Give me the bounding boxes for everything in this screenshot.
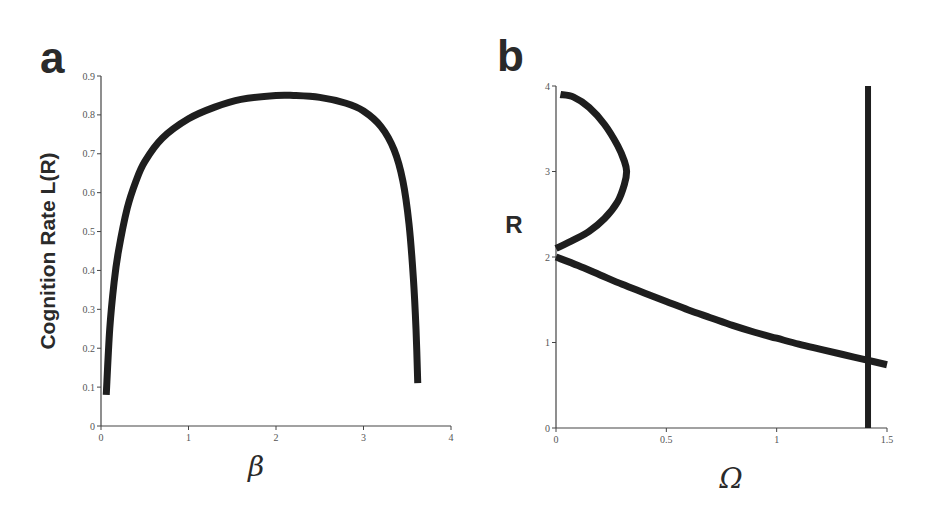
chart-b-axes: 00.511.501234	[545, 81, 893, 446]
chart-a-y-tick-label: 0.9	[83, 71, 96, 82]
chart-a-y-tick-label: 0.6	[83, 187, 96, 198]
chart-b-y-tick-label: 3	[545, 166, 550, 177]
chart-a-x-tick-label: 4	[449, 432, 454, 443]
chart-a-x-tick-label: 3	[361, 432, 366, 443]
chart-b-y-axis-label: R	[505, 211, 522, 238]
chart-a-y-tick-label: 0.8	[83, 109, 96, 120]
chart-a-y-tick-label: 0.1	[83, 382, 96, 393]
chart-b-series-upper-branch-arc-	[556, 95, 627, 249]
chart-b-y-tick-label: 0	[545, 423, 550, 434]
chart-a-y-tick-label: 0.7	[83, 148, 96, 159]
chart-b-y-tick-label: 4	[545, 81, 550, 92]
chart-b-curves	[556, 86, 887, 428]
chart-a-x-tick-label: 1	[186, 432, 191, 443]
chart-b-y-tick-label: 2	[545, 252, 550, 263]
chart-a-y-tick-label: 0	[90, 421, 95, 432]
figure-canvas: 0123400.10.20.30.40.50.60.70.80.9 Cognit…	[0, 0, 927, 512]
chart-a-x-axis-label: β	[247, 450, 264, 483]
chart-a-y-axis-label: Cognition Rate L(R)	[36, 152, 59, 349]
chart-b-y-tick-label: 1	[545, 337, 550, 348]
chart-b-x-axis-label: Ω	[718, 462, 742, 495]
chart-a-y-tick-label: 0.5	[83, 226, 96, 237]
chart-a: 0123400.10.20.30.40.50.60.70.80.9 Cognit…	[36, 71, 454, 484]
chart-a-y-tick-label: 0.3	[83, 304, 96, 315]
chart-a-y-tick-label: 0.4	[83, 265, 96, 276]
chart-b-x-tick-label: 1	[774, 434, 779, 445]
chart-a-axes: 0123400.10.20.30.40.50.60.70.80.9	[83, 71, 454, 444]
chart-b-x-tick-label: 0	[554, 434, 559, 445]
chart-b-x-tick-label: 1.5	[881, 434, 894, 445]
chart-a-curve	[106, 95, 418, 395]
chart-a-x-tick-label: 0	[99, 432, 104, 443]
chart-a-series-l-r-	[106, 95, 418, 395]
chart-b-series-lower-branch	[556, 257, 887, 365]
chart-b-x-tick-label: 0.5	[660, 434, 673, 445]
chart-a-y-tick-label: 0.2	[83, 343, 96, 354]
chart-a-x-tick-label: 2	[274, 432, 279, 443]
chart-b: 00.511.501234 R Ω	[505, 81, 893, 496]
